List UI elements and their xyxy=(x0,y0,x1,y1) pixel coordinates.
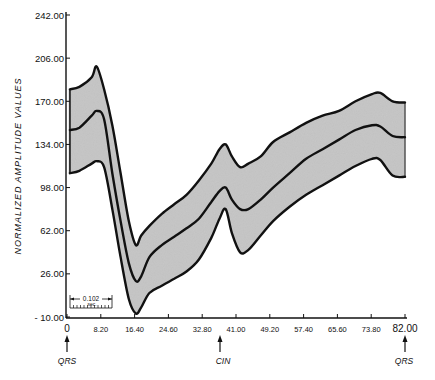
y-tick-label: - 10.00 xyxy=(34,312,64,323)
svg-text:CIN: CIN xyxy=(216,356,232,366)
confidence-band xyxy=(70,66,405,313)
y-tick-label: 170.00 xyxy=(35,96,64,107)
y-axis-title: NORMALIZED AMPLITUDE VALUES xyxy=(13,77,23,254)
svg-text:QRS: QRS xyxy=(58,356,77,366)
x-tick-label: 0 xyxy=(64,323,70,334)
chart: 242.00206.00170.00134.0098.0062.0026.00-… xyxy=(0,0,435,380)
y-axis: 242.00206.00170.00134.0098.0062.0026.00-… xyxy=(34,10,70,323)
svg-text:QRS: QRS xyxy=(395,356,414,366)
x-tick-label: 65.60 xyxy=(328,325,347,334)
x-tick-label: 57.40 xyxy=(294,325,313,334)
x-axis: 08.2016.4024.6032.8041.0049.2057.4065.60… xyxy=(64,314,418,334)
x-tick-label: 24.60 xyxy=(159,325,178,334)
marker-cin: CIN xyxy=(216,335,232,366)
x-tick-label: 32.80 xyxy=(193,325,212,334)
y-tick-label: 134.00 xyxy=(35,139,64,150)
arrow-up-icon xyxy=(403,335,408,342)
y-tick-label: 26.00 xyxy=(40,268,64,279)
x-tick-label: 8.20 xyxy=(93,325,108,334)
y-tick-label: 62.00 xyxy=(40,225,64,236)
marker-qrs-start: QRS xyxy=(58,335,77,366)
scale-bar: 0.102 sec. xyxy=(70,294,112,308)
y-tick-label: 98.00 xyxy=(40,182,64,193)
y-tick-label: 206.00 xyxy=(35,53,64,64)
band-area xyxy=(70,66,405,313)
x-tick-label: 49.20 xyxy=(260,325,279,334)
y-tick-label: 242.00 xyxy=(35,10,64,21)
scale-bar-unit: sec. xyxy=(87,301,96,307)
x-tick-label: 41.00 xyxy=(227,325,246,334)
arrow-up-icon xyxy=(218,335,223,342)
arrow-up-icon xyxy=(65,335,70,342)
x-tick-label: 16.40 xyxy=(125,325,144,334)
x-tick-label: 73.80 xyxy=(362,325,381,334)
marker-qrs-end: QRS xyxy=(395,335,414,366)
x-tick-label: 82.00 xyxy=(392,323,417,334)
